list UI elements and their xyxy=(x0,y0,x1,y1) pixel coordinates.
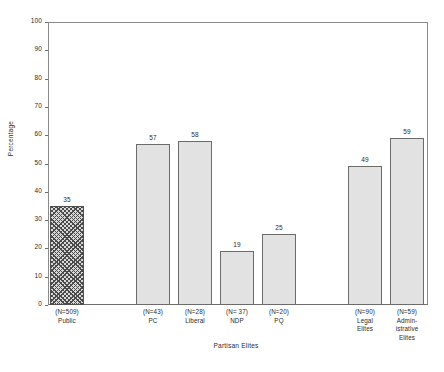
y-axis-tick-label: 90 xyxy=(35,45,42,53)
y-axis-title: Percentage xyxy=(7,107,14,171)
bar: 59 xyxy=(390,138,424,305)
bar: 25 xyxy=(262,234,296,305)
y-axis-tick-mark xyxy=(45,22,48,23)
y-axis-tick-mark xyxy=(45,220,48,221)
y-axis-tick-label: 60 xyxy=(35,130,42,138)
x-axis-title: Partisan Elites xyxy=(0,342,444,349)
x-axis-category-label: (N=20) PQ xyxy=(247,308,311,325)
y-axis-tick-label: 100 xyxy=(31,17,42,25)
x-axis-category-label: (N=509) Public xyxy=(35,308,99,325)
bar: 35 xyxy=(50,206,84,305)
y-axis-tick-label: 40 xyxy=(35,187,42,195)
y-axis-tick-label: 10 xyxy=(35,272,42,280)
y-axis-tick-mark xyxy=(45,107,48,108)
y-axis-tick-label: 80 xyxy=(35,74,42,82)
y-axis-tick-label: 70 xyxy=(35,102,42,110)
y-axis-tick-mark xyxy=(45,277,48,278)
bar: 49 xyxy=(348,166,382,305)
bar-value-label: 59 xyxy=(403,128,410,136)
y-axis-tick-mark xyxy=(45,79,48,80)
y-axis-tick-label: 0 xyxy=(38,300,42,308)
y-axis-tick-mark xyxy=(45,248,48,249)
y-axis-tick-label: 30 xyxy=(35,215,42,223)
y-axis-tick-mark xyxy=(45,135,48,136)
bar: 57 xyxy=(136,144,170,305)
bar-value-label: 58 xyxy=(191,131,198,139)
bar-value-label: 35 xyxy=(63,196,70,204)
bar: 19 xyxy=(220,251,254,305)
y-axis-tick-mark xyxy=(45,192,48,193)
y-axis-tick-mark xyxy=(45,50,48,51)
x-axis-category-label: (N=59) Admin- istrative Elites xyxy=(375,308,439,342)
bar-value-label: 19 xyxy=(233,241,240,249)
bar: 58 xyxy=(178,141,212,305)
bar-value-label: 25 xyxy=(275,224,282,232)
y-axis-tick-mark xyxy=(45,305,48,306)
bar-chart-figure: 0102030405060708090100 Percentage 355758… xyxy=(0,0,444,372)
y-axis-tick-label: 50 xyxy=(35,159,42,167)
bar-value-label: 57 xyxy=(149,134,156,142)
y-axis-tick-mark xyxy=(45,164,48,165)
y-axis-tick-label: 20 xyxy=(35,243,42,251)
bar-value-label: 49 xyxy=(361,156,368,164)
